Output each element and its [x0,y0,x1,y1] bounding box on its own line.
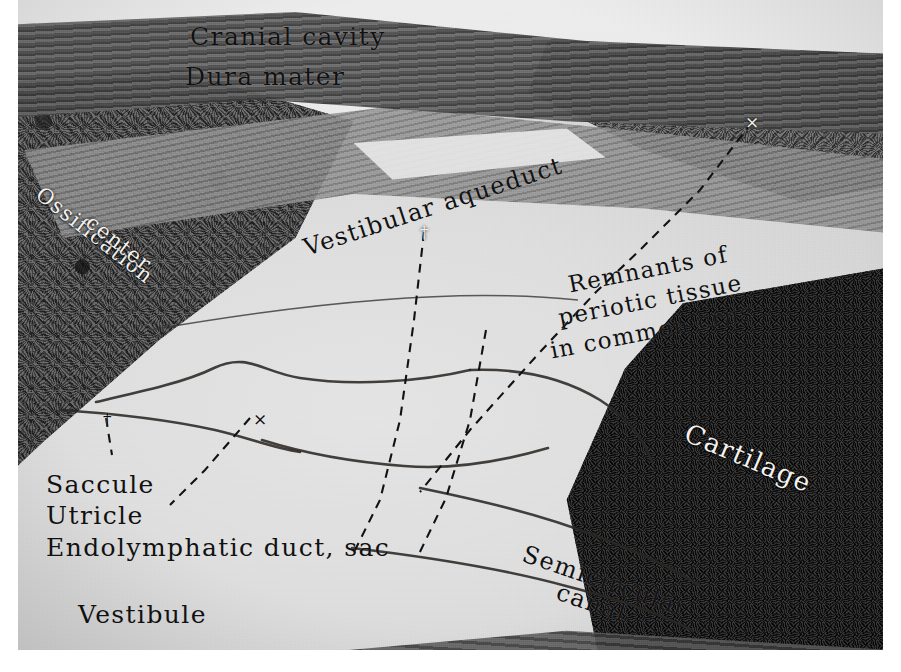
cross-utricle: × [253,409,267,429]
leader-endolymphatic-sac [418,330,486,556]
endolymph-sac-wall [262,440,548,467]
label-dura-mater: Dura mater [185,62,345,92]
label-endolymphatic-duct-sac: Endolymphatic duct, sac [46,533,390,563]
label-vestibule: Vestibule [78,600,207,630]
dagger-saccule: † [103,409,112,429]
annotation-overlay [0,0,901,672]
common-crus-wall [470,370,652,462]
label-utricle: Utricle [46,501,144,531]
aqueduct-floor [150,296,578,331]
label-cranial-cavity: Cranial cavity [190,22,386,52]
label-saccule: Saccule [46,470,155,500]
leader-utricle [170,418,250,505]
histology-plate: ×††× Cranial cavityDura materOssificatio… [0,0,901,672]
leader-endolymphatic-duct [352,232,424,556]
utricle-wall [96,362,470,402]
cross-remnants: × [745,112,759,132]
